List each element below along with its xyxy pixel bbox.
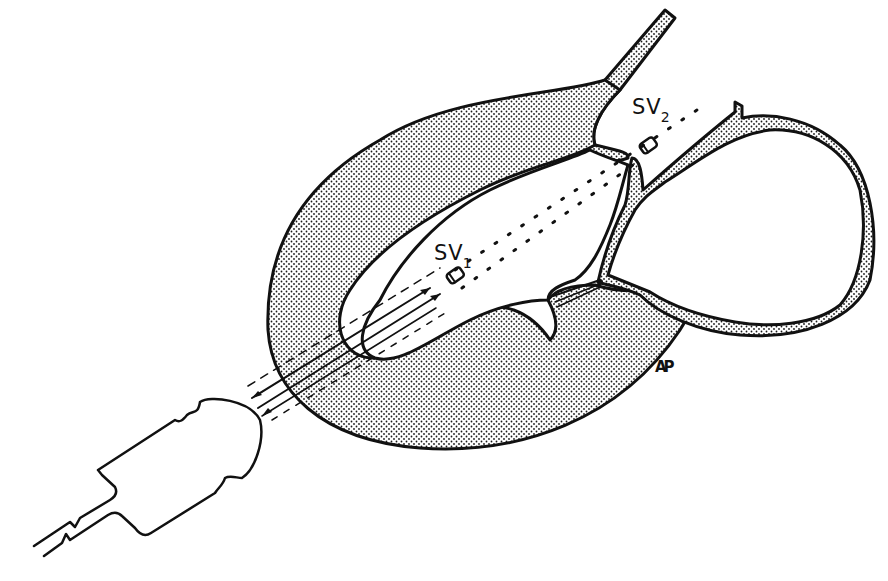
sv2-label: SV2	[632, 97, 671, 118]
sv1-label: SV1	[434, 243, 473, 264]
doppler-heart-diagram	[0, 0, 888, 581]
sv1-label-sub: 1	[463, 255, 472, 271]
transducer-probe	[34, 399, 261, 556]
sv2-label-sub: 2	[661, 109, 670, 125]
artist-monogram: AP	[655, 360, 672, 375]
sv2-label-main: SV	[632, 95, 662, 119]
sv1-label-main: SV	[434, 241, 464, 265]
